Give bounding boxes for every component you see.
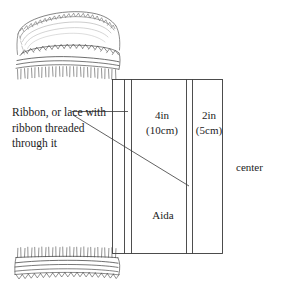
wide-panel-measurement-label: 4in (10cm) [139,108,185,137]
aida-fabric-label: Aida [140,208,186,223]
center-label: center [236,160,263,175]
bottom-fabric-illustration [15,247,120,279]
wide-panel-metric: (10cm) [139,123,185,138]
ribbon-lace-callout-label: Ribbon, or lace with ribbon threaded thr… [12,105,116,152]
narrow-panel-measurement-label: 2in (5cm) [192,108,226,137]
aida-band-rectangle [113,80,223,254]
figure-canvas: Ribbon, or lace with ribbon threaded thr… [0,0,284,298]
narrow-panel-metric: (5cm) [192,123,226,138]
ribbon-band-right [187,80,193,254]
top-fabric-illustration [16,12,120,80]
wide-panel-inches: 4in [139,108,185,123]
narrow-panel-inches: 2in [192,108,226,123]
ribbon-band-left [125,80,132,254]
